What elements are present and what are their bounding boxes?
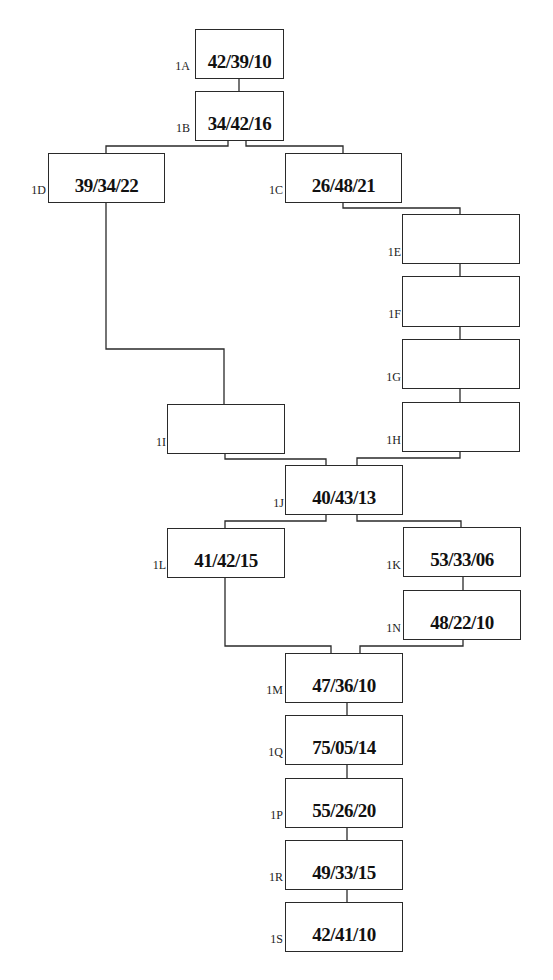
node-1A: 42/39/10: [195, 29, 284, 79]
connector-lines: [0, 0, 553, 980]
node-1S: 42/41/10: [285, 902, 403, 952]
node-value-1B: 34/42/16: [208, 114, 272, 133]
edge-1B-1D: [106, 141, 228, 153]
node-value-1A: 42/39/10: [208, 52, 272, 71]
node-label-1I: 1I: [142, 436, 166, 448]
node-value-1M: 47/36/10: [312, 676, 376, 695]
edge-1L-1M: [225, 578, 331, 653]
node-1E: [402, 214, 520, 264]
node-1H: [402, 402, 520, 452]
node-value-1L: 41/42/15: [194, 551, 258, 570]
node-label-1R: 1R: [259, 871, 283, 883]
node-label-1M: 1M: [259, 684, 283, 696]
node-1C: 26/48/21: [285, 153, 402, 203]
node-value-1P: 55/26/20: [312, 801, 376, 820]
node-1Q: 75/05/14: [285, 715, 403, 765]
node-label-1C: 1C: [259, 184, 283, 196]
node-value-1Q: 75/05/14: [312, 738, 376, 757]
node-label-1A: 1A: [166, 60, 190, 72]
node-1F: [402, 276, 520, 327]
node-1J: 40/43/13: [285, 465, 403, 515]
node-1G: [402, 339, 520, 389]
edge-1I-1J: [225, 454, 326, 465]
node-1D: 39/34/22: [48, 153, 165, 203]
flowchart-canvas: 1A 42/39/10 1B 34/42/16 1D 39/34/22 1C 2…: [0, 0, 553, 980]
edge-1J-1K: [357, 515, 461, 527]
node-value-1K: 53/33/06: [430, 550, 494, 569]
node-label-1G: 1G: [377, 371, 401, 383]
node-value-1N: 48/22/10: [430, 613, 494, 632]
node-value-1C: 26/48/21: [312, 176, 376, 195]
node-1N: 48/22/10: [403, 590, 521, 640]
node-label-1Q: 1Q: [259, 746, 283, 758]
node-value-1D: 39/34/22: [75, 176, 139, 195]
node-1B: 34/42/16: [195, 91, 284, 141]
node-1L: 41/42/15: [167, 528, 285, 578]
node-label-1H: 1H: [377, 434, 401, 446]
node-1R: 49/33/15: [285, 840, 403, 890]
node-label-1S: 1S: [259, 933, 283, 945]
node-label-1B: 1B: [166, 122, 190, 134]
node-1I: [167, 404, 285, 454]
node-label-1J: 1J: [260, 497, 284, 509]
node-label-1E: 1E: [377, 246, 401, 258]
node-value-1J: 40/43/13: [312, 488, 376, 507]
node-label-1N: 1N: [377, 622, 401, 634]
edge-1B-1C: [246, 141, 343, 153]
node-value-1S: 42/41/10: [312, 925, 376, 944]
edge-1H-1J: [357, 452, 460, 465]
node-1P: 55/26/20: [285, 778, 403, 828]
node-label-1L: 1L: [142, 559, 166, 571]
node-label-1D: 1D: [22, 184, 46, 196]
edge-1J-1L: [225, 515, 326, 528]
edge-1C-1E: [343, 203, 460, 214]
node-label-1P: 1P: [259, 809, 283, 821]
node-1K: 53/33/06: [403, 527, 521, 577]
edge-1N-1M: [360, 640, 463, 653]
node-label-1K: 1K: [377, 559, 401, 571]
node-value-1R: 49/33/15: [312, 863, 376, 882]
edge-1D-1I: [106, 203, 224, 404]
node-1M: 47/36/10: [285, 653, 403, 703]
node-label-1F: 1F: [377, 308, 401, 320]
